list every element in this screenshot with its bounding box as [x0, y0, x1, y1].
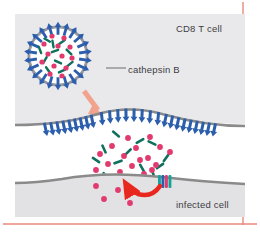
granzyme-molecule [129, 163, 135, 169]
granzyme-molecule [61, 35, 66, 40]
granzyme-molecule [109, 143, 115, 149]
label-cathepsin-b: cathepsin B [128, 64, 180, 75]
granzyme-molecule [51, 63, 56, 68]
label-infected-cell: infected cell [176, 199, 229, 210]
granzyme-molecule [145, 155, 151, 161]
granzyme-molecule [93, 183, 99, 189]
receptor-subunit [165, 175, 168, 188]
granzyme-molecule [41, 41, 46, 46]
granzyme-molecule [105, 161, 111, 167]
granzyme-molecule [125, 135, 131, 141]
granzyme-molecule [101, 196, 107, 202]
granzyme-molecule [157, 144, 163, 150]
granzyme-molecule [133, 145, 139, 151]
granzyme-molecule [55, 43, 60, 48]
granzyme-molecule [153, 162, 159, 168]
granzyme-molecule [63, 65, 68, 70]
illustration-body [15, 14, 245, 217]
granzyme-molecule [97, 151, 103, 157]
granzyme-molecule [167, 149, 173, 155]
receptor-subunit [169, 175, 172, 188]
granzyme-molecule [127, 200, 133, 206]
granzyme-molecule [69, 55, 74, 60]
granzyme-molecule [147, 134, 153, 140]
granzyme-molecule [67, 44, 72, 49]
granzyme-molecule [93, 167, 99, 173]
granzyme-molecule [59, 73, 64, 78]
granzyme-molecule [137, 157, 143, 163]
granzyme-molecule [39, 59, 44, 64]
granzyme-molecule [59, 53, 64, 58]
granule-lumen [31, 29, 86, 84]
granzyme-molecule [149, 167, 155, 173]
granzyme-molecule [45, 51, 50, 56]
granzyme-molecule [121, 153, 127, 159]
label-cd8-t-cell: CD8 T cell [176, 23, 222, 34]
granzyme-molecule [47, 71, 52, 76]
figure-panel: CD8 T cell infected cell cathepsin B [0, 0, 260, 233]
granzyme-molecule [115, 187, 121, 193]
